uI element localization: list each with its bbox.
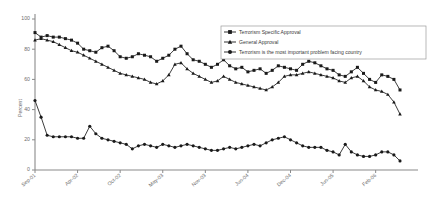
x-tick-label: Sep-01: [20, 172, 37, 187]
y-tick-label: 0: [27, 166, 30, 172]
series-3: [33, 99, 401, 163]
legend-marker-icon: [228, 50, 232, 54]
x-tick-label: Jun-04: [234, 172, 250, 187]
x-tick-label: Apr-02: [63, 172, 79, 187]
x-axis: Sep-01Apr-02Oct-02May-03Nov-03Jun-04Dec-…: [20, 170, 418, 188]
y-tick-label: 40: [24, 106, 30, 112]
y-axis-title: Percent: [17, 99, 23, 117]
x-tick-label: Feb-06: [361, 172, 378, 187]
line-chart: 020406080100 Sep-01Apr-02Oct-02May-03Nov…: [0, 0, 428, 203]
chart-legend: Terrorism Specific ApprovalGeneral Appro…: [221, 26, 426, 59]
chart-container: 020406080100 Sep-01Apr-02Oct-02May-03Nov…: [0, 0, 428, 203]
legend-marker-icon: [228, 30, 232, 34]
x-tick-label: Nov-03: [190, 172, 207, 187]
x-tick-label: May-03: [147, 172, 164, 188]
legend-label: Terrorism Specific Approval: [239, 29, 301, 35]
y-axis: 020406080100: [21, 14, 35, 172]
x-tick-label: Dec-04: [275, 172, 292, 187]
legend-label: General Approval: [239, 39, 278, 45]
y-tick-label: 60: [24, 76, 30, 82]
x-tick-label: Oct-02: [106, 172, 122, 187]
legend-item[interactable]: Terrorism is the most important problem …: [224, 49, 362, 55]
y-tick-label: 20: [24, 136, 30, 142]
y-tick-label: 80: [24, 46, 30, 52]
y-tick-label: 100: [21, 15, 30, 21]
legend-label: Terrorism is the most important problem …: [239, 49, 362, 55]
x-tick-label: Jun-05: [319, 172, 335, 187]
